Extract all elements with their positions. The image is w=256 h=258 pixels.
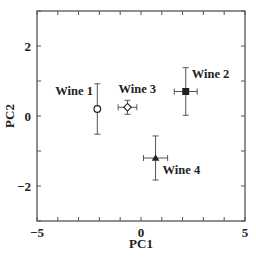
x-tick-label: 5 (242, 225, 249, 240)
point-label-wine-1: Wine 1 (55, 84, 93, 98)
x-axis-label: PC1 (129, 236, 153, 251)
y-axis-label: PC2 (2, 104, 17, 128)
x-tick-label: −5 (30, 225, 44, 240)
pca-scatter-chart: −50520−2 Wine 1Wine 2Wine 3Wine 4 PC1 PC… (0, 0, 256, 258)
point-labels: Wine 1Wine 2Wine 3Wine 4 (55, 67, 229, 178)
plot-frame (37, 11, 245, 221)
point-label-wine-3: Wine 3 (118, 82, 156, 96)
point-label-wine-2: Wine 2 (192, 67, 230, 81)
axis-ticks (37, 11, 245, 221)
point-label-wine-4: Wine 4 (163, 163, 201, 177)
data-point-wine-1 (94, 84, 101, 134)
y-tick-label: 2 (25, 39, 32, 54)
open-diamond-marker (124, 103, 132, 111)
y-tick-label: 0 (25, 109, 32, 124)
y-tick-label: −2 (17, 179, 31, 194)
open-circle-marker (94, 106, 101, 113)
filled-square-marker (182, 88, 189, 95)
plot-border (37, 11, 245, 221)
data-point-wine-3 (118, 100, 137, 114)
